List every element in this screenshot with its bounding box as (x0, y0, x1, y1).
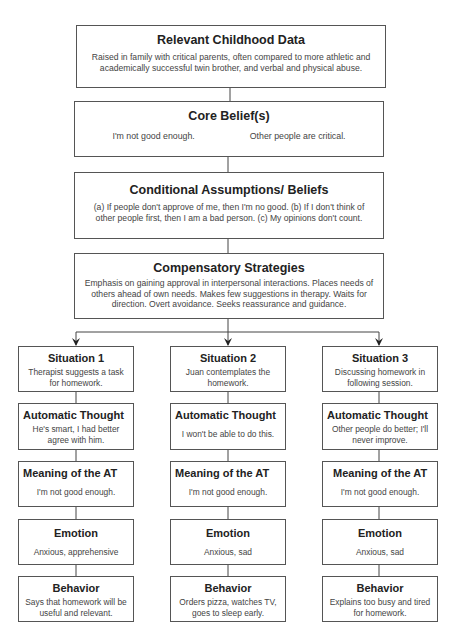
meaning-body: I'm not good enough. (323, 487, 437, 498)
conditional-assumptions-title: Conditional Assumptions/ Beliefs (75, 183, 383, 197)
behavior-3-box: Behavior Explains too busy and tired for… (322, 576, 438, 622)
emotion-3-box: Emotion Anxious, sad (322, 519, 438, 565)
automatic-thought-body: I won't be able to do this. (171, 429, 285, 440)
emotion-title: Emotion (323, 527, 437, 539)
emotion-body: Anxious, sad (171, 547, 285, 558)
automatic-thought-body: Other people do better; I'll never impro… (323, 424, 437, 445)
situation-body: Therapist suggests a task for homework. (19, 367, 133, 388)
situation-3-box: Situation 3 Discussing homework in follo… (322, 346, 438, 392)
automatic-thought-body: He's smart, I had better agree with him. (19, 424, 133, 445)
behavior-body: Says that homework will be useful and re… (19, 597, 133, 618)
situation-2-box: Situation 2 Juan contemplates the homewo… (170, 346, 286, 392)
meaning-3-box: Meaning of the AT I'm not good enough. (322, 461, 438, 507)
behavior-1-box: Behavior Says that homework will be usef… (18, 576, 134, 622)
situation-body: Juan contemplates the homework. (171, 367, 285, 388)
meaning-title: Meaning of the AT (323, 467, 437, 479)
meaning-1-box: Meaning of the AT I'm not good enough. (18, 461, 134, 507)
situation-title: Situation 2 (171, 352, 285, 364)
situation-title: Situation 3 (323, 352, 437, 364)
childhood-data-body: Raised in family with critical parents, … (77, 52, 385, 73)
compensatory-strategies-body: Emphasis on gaining approval in interper… (75, 278, 383, 310)
emotion-1-box: Emotion Anxious, apprehensive (18, 519, 134, 565)
automatic-thought-3-box: Automatic Thought Other people do better… (322, 403, 438, 450)
meaning-2-box: Meaning of the AT I'm not good enough. (170, 461, 286, 507)
emotion-body: Anxious, apprehensive (19, 547, 133, 558)
emotion-title: Emotion (171, 527, 285, 539)
automatic-thought-title: Automatic Thought (323, 409, 437, 421)
core-belief-item: Other people are critical. (250, 131, 346, 141)
automatic-thought-title: Automatic Thought (171, 409, 285, 421)
automatic-thought-title: Automatic Thought (19, 409, 133, 421)
behavior-title: Behavior (323, 582, 437, 594)
situation-title: Situation 1 (19, 352, 133, 364)
meaning-title: Meaning of the AT (171, 467, 285, 479)
meaning-body: I'm not good enough. (171, 487, 285, 498)
emotion-body: Anxious, sad (323, 547, 437, 558)
core-belief-item: I'm not good enough. (112, 131, 194, 141)
childhood-data-title: Relevant Childhood Data (77, 33, 385, 47)
automatic-thought-2-box: Automatic Thought I won't be able to do … (170, 403, 286, 450)
situation-body: Discussing homework in following session… (323, 367, 437, 388)
compensatory-strategies-title: Compensatory Strategies (75, 261, 383, 275)
meaning-body: I'm not good enough. (19, 487, 133, 498)
situation-1-box: Situation 1 Therapist suggests a task fo… (18, 346, 134, 392)
behavior-body: Orders pizza, watches TV, goes to sleep … (171, 597, 285, 618)
behavior-2-box: Behavior Orders pizza, watches TV, goes … (170, 576, 286, 622)
compensatory-strategies-box: Compensatory Strategies Emphasis on gain… (74, 253, 384, 319)
emotion-title: Emotion (19, 527, 133, 539)
behavior-title: Behavior (171, 582, 285, 594)
core-beliefs-title: Core Belief(s) (75, 109, 383, 123)
behavior-title: Behavior (19, 582, 133, 594)
automatic-thought-1-box: Automatic Thought He's smart, I had bett… (18, 403, 134, 450)
behavior-body: Explains too busy and tired for homework… (323, 597, 437, 618)
childhood-data-box: Relevant Childhood Data Raised in family… (76, 25, 386, 88)
conditional-assumptions-box: Conditional Assumptions/ Beliefs (a) If … (74, 172, 384, 239)
emotion-2-box: Emotion Anxious, sad (170, 519, 286, 565)
conditional-assumptions-body: (a) If people don't approve of me, then … (75, 202, 383, 223)
core-beliefs-box: Core Belief(s) I'm not good enough. Othe… (74, 101, 384, 157)
meaning-title: Meaning of the AT (19, 467, 133, 479)
